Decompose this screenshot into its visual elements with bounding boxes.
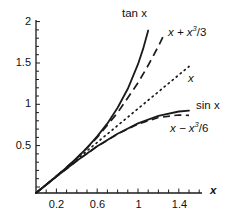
y-tick-label-0.5: 0.5 (6, 140, 31, 151)
y-tick-label-2: 2 (6, 16, 31, 27)
curve-label-tan-series-base: x + x (168, 26, 193, 38)
x-axis-name: x (210, 185, 216, 197)
curve-label-tan-series-denominator: /3 (197, 26, 207, 38)
x-axis-ticks (46, 189, 199, 194)
curve-label-tan-x: tan x (122, 8, 147, 20)
y-tick-label-1: 1 (6, 98, 31, 109)
x-tick-label-1.4: 1.4 (165, 199, 194, 210)
curve-sin-series (36, 115, 189, 193)
curve-label-tan-x-text: tan x (122, 7, 147, 19)
y-axis-ticks (36, 22, 40, 187)
curve-sin-x (36, 111, 189, 193)
x-tick-label-1: 1 (124, 199, 153, 210)
trig-approximation-chart: 0.5 1 1.5 2 0.2 0.6 1 1.4 x tan x x + x3… (0, 0, 239, 222)
curve-label-identity-text: x (188, 72, 194, 84)
curve-label-sin-x-text: sin x (196, 99, 220, 111)
curve-label-tan-series: x + x3/3 (168, 27, 206, 39)
y-tick-label-1.5: 1.5 (6, 57, 31, 68)
curve-label-sin-x: sin x (196, 100, 220, 112)
curve-label-sin-series-denominator: /6 (199, 122, 209, 134)
curve-label-sin-series-base: x − x (170, 122, 195, 134)
curve-label-identity: x (188, 73, 194, 85)
curve-label-sin-series: x − x3/6 (170, 123, 208, 135)
x-tick-label-0.2: 0.2 (42, 199, 71, 210)
curve-tan-series (36, 36, 164, 193)
x-tick-label-0.6: 0.6 (83, 199, 112, 210)
curve-tan-x (36, 31, 148, 194)
